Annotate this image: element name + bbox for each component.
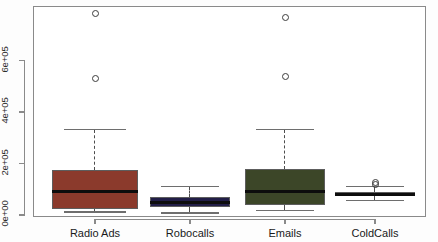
boxplot-figure: 0e+002e+054e+056e+05 Radio AdsRobocallsE… bbox=[0, 0, 438, 242]
whisker-cap-lower bbox=[346, 200, 404, 201]
median-line bbox=[335, 193, 415, 196]
box-group-coldcalls[interactable] bbox=[0, 0, 438, 242]
outlier-point bbox=[372, 179, 379, 186]
